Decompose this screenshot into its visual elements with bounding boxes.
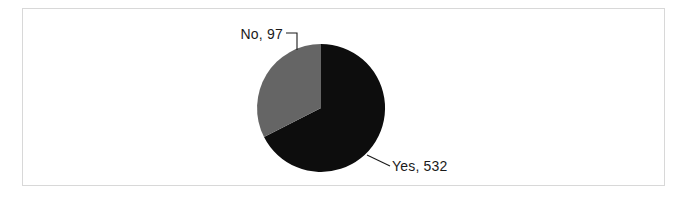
- leader-line-no: [286, 33, 297, 50]
- pie-chart: No, 97 Yes, 532: [0, 0, 689, 201]
- pie-label-no: No, 97: [241, 26, 283, 42]
- leader-line-yes: [367, 155, 390, 166]
- screenshot-root: No, 97 Yes, 532: [0, 0, 689, 201]
- pie-label-yes: Yes, 532: [392, 158, 448, 174]
- pie-chart-canvas: No, 97 Yes, 532: [0, 0, 689, 201]
